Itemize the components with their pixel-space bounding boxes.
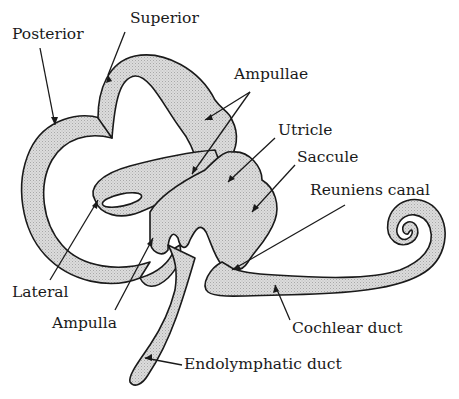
label-cochlear-duct: Cochlear duct (292, 321, 402, 337)
label-reuniens-canal: Reuniens canal (310, 183, 430, 199)
label-superior: Superior (130, 11, 199, 27)
inner-ear-diagram (0, 0, 459, 399)
label-ampullae: Ampullae (234, 67, 308, 83)
label-posterior: Posterior (12, 27, 84, 43)
superior-canal (98, 55, 236, 166)
label-saccule: Saccule (297, 150, 358, 166)
label-endolymphatic-duct: Endolymphatic duct (184, 357, 342, 373)
label-lateral: Lateral (12, 285, 69, 301)
label-ampulla: Ampulla (52, 316, 117, 332)
label-utricle: Utricle (278, 123, 332, 139)
